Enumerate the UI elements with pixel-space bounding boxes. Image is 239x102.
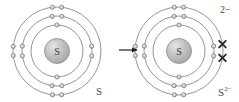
electron-shell3-3: [182, 93, 186, 97]
electron-shell2-5: [20, 54, 24, 58]
electron-shell3-4: [50, 93, 54, 97]
electron-shell2-2: [182, 14, 186, 18]
electron-shell2-7: [90, 44, 94, 48]
atom-sulfide-ion: S: [133, 5, 226, 97]
electron-shell2-1: [172, 14, 176, 18]
diagram-canvas: S S: [0, 0, 239, 102]
electron-shell2-2: [60, 14, 64, 18]
electron-shell1-2: [55, 75, 59, 79]
electron-shell3-1: [50, 5, 54, 9]
atom-left-label: S: [96, 86, 102, 97]
electron-shell2-4: [172, 84, 176, 88]
electron-shell2-8: [90, 54, 94, 58]
ion-charge-badge: 2−: [220, 4, 231, 15]
electron-shell2-7: [212, 44, 216, 48]
electron-shell2-1: [50, 14, 54, 18]
electron-shell3-6: [11, 44, 15, 48]
atom-right-label-charge: 2−: [224, 85, 231, 93]
electron-shell3-5: [133, 54, 137, 58]
atom-sulfur-neutral: S: [11, 5, 101, 97]
electron-shell3-5: [11, 54, 15, 58]
electron-shell1-1: [55, 23, 59, 27]
electron-shell2-3: [60, 84, 64, 88]
electron-shell2-8: [212, 54, 216, 58]
electron-shell3-6: [133, 44, 137, 48]
electron-shell3-2: [182, 5, 186, 9]
electron-shell3-3: [60, 93, 64, 97]
electron-shell3-4: [172, 93, 176, 97]
electron-shell3-2: [60, 5, 64, 9]
atom-right-label: S2−: [218, 84, 232, 98]
bohr-model-diagram: S S S S2− 2−: [0, 0, 239, 102]
electron-shell1-1: [177, 23, 181, 27]
electron-shell2-3: [182, 84, 186, 88]
electron-shell2-6: [142, 44, 146, 48]
electron-shell2-4: [50, 84, 54, 88]
electron-shell2-5: [142, 54, 146, 58]
electron-shell1-2: [177, 75, 181, 79]
nucleus-symbol: S: [54, 46, 60, 57]
nucleus-symbol: S: [176, 46, 182, 57]
electron-shell2-6: [20, 44, 24, 48]
electron-shell3-1: [172, 5, 176, 9]
